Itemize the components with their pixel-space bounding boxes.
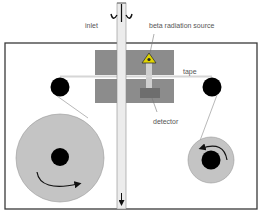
detector-block xyxy=(140,88,160,98)
inlet-label: inlet xyxy=(85,22,98,29)
supply-reel-hub xyxy=(51,148,69,166)
chamber-upper xyxy=(95,50,174,75)
chamber-lower xyxy=(95,79,174,103)
source-column xyxy=(146,62,152,88)
tape-label: tape xyxy=(183,68,197,76)
left-guide-roller xyxy=(51,78,70,97)
take-up-reel-hub xyxy=(202,151,221,170)
inlet-tube xyxy=(117,3,126,209)
beta-monitor-diagram: inlet beta radiation source tape detecto… xyxy=(0,0,258,211)
detector-label: detector xyxy=(153,118,179,125)
source-label: beta radiation source xyxy=(149,22,214,29)
right-guide-roller xyxy=(203,78,222,97)
